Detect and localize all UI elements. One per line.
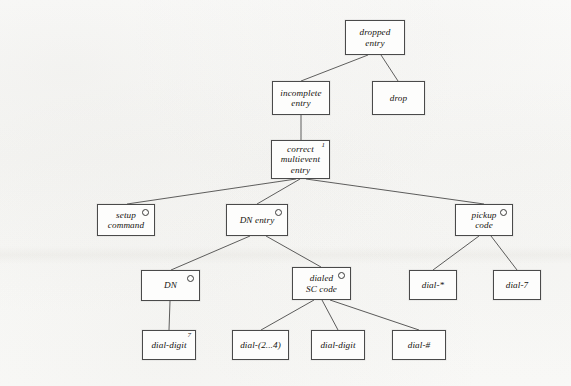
node-label-incomplete-entry: incomplete entry [278,88,323,109]
node-dn[interactable]: DN [141,270,200,301]
node-dropped-entry[interactable]: dropped entry [345,20,405,55]
node-dial-star[interactable]: dial-* [409,270,457,300]
tree-edge-dn-entry-to-dialed-sc-code [266,236,321,267]
node-label-dn-entry: DN entry [238,215,277,225]
marker-circle-dn [187,275,194,282]
node-dial-digit-1[interactable]: dial-digit7 [142,330,196,360]
node-label-dial-7: dial-7 [504,280,531,290]
node-setup-command[interactable]: setup command [97,204,155,236]
node-pickup-code[interactable]: pickup code [455,204,513,236]
tree-edges [0,0,571,386]
tree-edge-dn-entry-to-dn [171,236,250,270]
node-dial-2-4[interactable]: dial-(2...4) [232,330,289,360]
tree-edge-dropped-entry-to-incomplete-entry [301,55,368,81]
node-label-correct-multievent-entry: correct multievent entry [279,144,322,175]
tree-edge-correct-multievent-entry-to-pickup-code [306,179,484,204]
node-label-dial-2-4: dial-(2...4) [238,340,283,350]
tree-edge-correct-multievent-entry-to-setup-command [127,179,296,204]
node-label-drop: drop [388,93,409,103]
tree-edge-dropped-entry-to-drop [381,55,398,81]
node-dial-hash[interactable]: dial-# [392,330,446,360]
node-dial-7[interactable]: dial-7 [493,270,541,300]
node-label-dial-star: dial-* [420,280,447,290]
marker-circle-pickup-code [500,209,507,216]
node-label-dial-digit-2: dial-digit [318,340,357,350]
node-correct-multievent-entry[interactable]: correct multievent entry1 [271,140,330,179]
node-label-setup-command: setup command [106,210,146,231]
node-incomplete-entry[interactable]: incomplete entry [272,81,330,115]
tree-edge-dn-to-dial-digit-1 [169,301,170,330]
node-dn-entry[interactable]: DN entry [226,204,288,236]
node-label-dial-hash: dial-# [406,340,433,350]
node-dialed-sc-code[interactable]: dialed SC code [292,267,351,300]
node-dial-digit-2[interactable]: dial-digit [311,330,365,360]
node-drop[interactable]: drop [372,81,425,115]
tree-edge-pickup-code-to-dial-star [433,236,479,270]
diagram-page: dropped entryincomplete entrydropcorrect… [0,0,571,386]
node-label-pickup-code: pickup code [469,210,498,231]
node-label-dropped-entry: dropped entry [358,27,393,48]
marker-superscript-dial-digit-1: 7 [188,332,192,339]
tree-edge-correct-multievent-entry-to-dn-entry [257,179,300,204]
tree-edge-dialed-sc-code-to-dial-hash [330,300,419,330]
marker-circle-dialed-sc-code [338,272,345,279]
node-label-dial-digit-1: dial-digit [149,340,188,350]
node-label-dn: DN [162,280,179,290]
node-label-dialed-sc-code: dialed SC code [304,273,339,294]
tree-edge-dialed-sc-code-to-dial-2-4 [261,300,314,330]
tree-edge-pickup-code-to-dial-7 [491,236,517,270]
tree-edge-dialed-sc-code-to-dial-digit-2 [322,300,338,330]
